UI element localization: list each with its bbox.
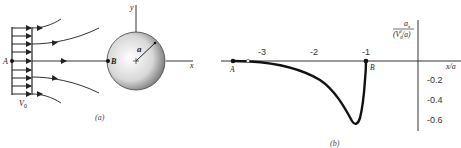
x-tick-label: -1 (362, 47, 370, 57)
y-tick-label: -0.2 (427, 75, 443, 85)
y-tick-label: -0.6 (427, 115, 443, 125)
point-a-label-b: A (229, 65, 235, 74)
radius-label: a (137, 44, 142, 54)
figure-b: -3 -2 -1 -0.2 -0.4 -0.6 x/a ax (V02/a) A… (221, 19, 461, 148)
caption-a: (a) (95, 113, 105, 122)
point-b-label: B (110, 57, 117, 66)
x-axis-label-a: x (189, 61, 194, 70)
velocity-profile (12, 27, 32, 95)
figure-a: A V0 y x a B (a) (2, 3, 194, 122)
point-b-label-b: B (370, 63, 375, 72)
x-axis-label-b: x/a (445, 62, 456, 71)
svg-text:(V02/a): (V02/a) (393, 29, 411, 40)
point-a-label: A (2, 57, 8, 66)
y-axis-label-a: y (129, 3, 134, 12)
point-b-marker (106, 59, 110, 63)
acceleration-curve (233, 61, 366, 124)
x-tick-label: -3 (258, 47, 266, 57)
svg-text:ax: ax (404, 19, 411, 29)
point-a-marker (10, 59, 14, 63)
x-tick-label: -2 (310, 47, 318, 57)
point-b-marker-b (364, 59, 369, 64)
streamlines (32, 19, 108, 103)
velocity-label: V0 (19, 99, 27, 109)
y-axis-label-b: ax (V02/a) (393, 19, 414, 40)
caption-b: (b) (330, 139, 340, 148)
radius-end-dot (154, 42, 157, 45)
point-a-marker-b (231, 59, 236, 64)
figure-canvas: A V0 y x a B (a) -3 -2 -1 -0.2 -0.4 (0, 0, 461, 148)
open-marker (246, 59, 249, 62)
y-tick-label: -0.4 (427, 95, 443, 105)
